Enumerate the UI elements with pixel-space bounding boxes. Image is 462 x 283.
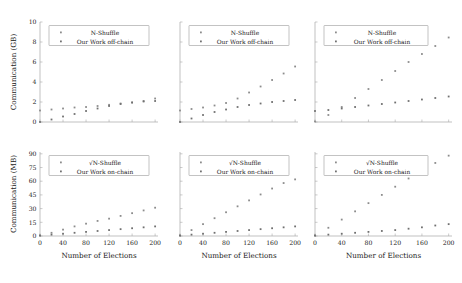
data-point bbox=[354, 210, 356, 212]
data-point bbox=[143, 226, 145, 228]
legend-marker bbox=[60, 32, 62, 34]
data-point bbox=[294, 66, 296, 68]
data-point bbox=[260, 194, 262, 196]
panel-bottom-right: 04080120160200Number of Elections√N-Shuf… bbox=[313, 152, 455, 260]
y-tick-label: 0 bbox=[33, 232, 37, 239]
x-tick-label: 200 bbox=[443, 239, 455, 246]
legend: N-ShuffleOur Work off-chain bbox=[324, 26, 428, 46]
data-point bbox=[408, 178, 410, 180]
data-point bbox=[179, 235, 181, 237]
data-point bbox=[381, 194, 383, 196]
data-point bbox=[448, 96, 450, 98]
data-point bbox=[74, 232, 76, 234]
y-tick-label: 8 bbox=[33, 38, 37, 45]
data-point bbox=[51, 109, 53, 111]
data-point bbox=[154, 98, 156, 100]
data-point bbox=[248, 104, 250, 106]
data-point bbox=[39, 121, 41, 123]
data-point bbox=[202, 233, 204, 235]
data-point bbox=[202, 107, 204, 109]
data-point bbox=[271, 101, 273, 103]
data-point bbox=[448, 223, 450, 225]
data-point bbox=[271, 188, 273, 190]
data-point bbox=[237, 230, 239, 232]
data-point bbox=[271, 79, 273, 81]
data-point bbox=[408, 61, 410, 63]
x-tick-label: 160 bbox=[416, 239, 428, 246]
legend-marker bbox=[60, 41, 62, 43]
legend: √N-ShuffleOur Work on-chain bbox=[324, 156, 428, 176]
x-axis-title: Number of Elections bbox=[346, 251, 422, 260]
data-point bbox=[248, 199, 250, 201]
x-tick-label: 160 bbox=[266, 239, 278, 246]
data-point bbox=[283, 73, 285, 75]
data-point bbox=[62, 229, 64, 231]
legend-label: Our Work off-chain bbox=[217, 39, 274, 45]
data-point bbox=[191, 118, 193, 120]
data-point bbox=[283, 100, 285, 102]
data-point bbox=[381, 103, 383, 105]
x-tick-label: 40 bbox=[59, 239, 67, 246]
data-point bbox=[381, 79, 383, 81]
x-tick-label: 40 bbox=[338, 239, 346, 246]
data-point bbox=[354, 106, 356, 108]
data-point bbox=[327, 234, 329, 236]
data-point bbox=[108, 229, 110, 231]
legend-marker bbox=[60, 171, 62, 173]
series-markers-1 bbox=[179, 178, 296, 236]
y-tick-label: 10 bbox=[29, 18, 37, 25]
data-point bbox=[108, 218, 110, 220]
data-point bbox=[131, 212, 133, 214]
y-tick-label: 15 bbox=[29, 219, 37, 226]
y-tick-label: 2 bbox=[33, 98, 37, 105]
data-point bbox=[294, 178, 296, 180]
data-point bbox=[368, 231, 370, 233]
legend-label: √N-Shuffle bbox=[229, 160, 262, 166]
data-point bbox=[271, 227, 273, 229]
panel-top-middle: N-ShuffleOur Work off-chain bbox=[179, 22, 298, 123]
y-tick-label: 6 bbox=[33, 58, 37, 65]
data-point bbox=[434, 45, 436, 47]
data-point bbox=[214, 232, 216, 234]
legend-label: √N-Shuffle bbox=[89, 160, 122, 166]
data-point bbox=[260, 103, 262, 105]
data-point bbox=[327, 109, 329, 111]
data-point bbox=[179, 110, 181, 112]
data-point bbox=[248, 229, 250, 231]
y-tick-label: 75 bbox=[29, 164, 37, 171]
legend-label: Our Work on-chain bbox=[217, 169, 274, 175]
data-point bbox=[143, 101, 145, 103]
y-axis-title: Communication (GB) bbox=[9, 34, 18, 111]
data-point bbox=[237, 106, 239, 108]
data-point bbox=[191, 108, 193, 110]
legend-marker bbox=[335, 32, 337, 34]
data-point bbox=[191, 229, 193, 231]
data-point bbox=[85, 223, 87, 225]
data-point bbox=[120, 103, 122, 105]
data-point bbox=[214, 111, 216, 113]
x-tick-label: 200 bbox=[149, 239, 161, 246]
x-tick-label: 80 bbox=[222, 239, 230, 246]
data-point bbox=[97, 108, 99, 110]
data-point bbox=[354, 232, 356, 234]
data-point bbox=[202, 114, 204, 116]
data-point bbox=[74, 226, 76, 228]
data-point bbox=[448, 37, 450, 39]
series-markers-2 bbox=[314, 223, 449, 236]
y-tick-label: 90 bbox=[29, 150, 37, 157]
legend-marker bbox=[335, 171, 337, 173]
data-point bbox=[314, 235, 316, 237]
data-point bbox=[260, 86, 262, 88]
data-point bbox=[62, 233, 64, 235]
data-point bbox=[368, 88, 370, 90]
legend: N-ShuffleOur Work off-chain bbox=[49, 26, 149, 46]
legend-label: Our Work off-chain bbox=[354, 39, 411, 45]
legend-label: N-Shuffle bbox=[368, 30, 397, 36]
x-tick-label: 120 bbox=[103, 239, 115, 246]
data-point bbox=[225, 211, 227, 213]
data-point bbox=[85, 231, 87, 233]
data-point bbox=[408, 228, 410, 230]
data-point bbox=[154, 100, 156, 102]
series-markers-2 bbox=[179, 226, 296, 237]
y-tick-label: 30 bbox=[29, 205, 37, 212]
